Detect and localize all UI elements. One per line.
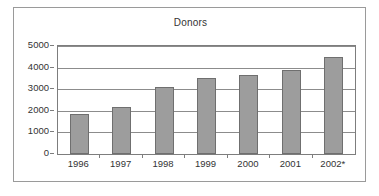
chart-frame: Donors 010002000300040005000 19961997199… xyxy=(13,7,366,182)
y-tick-label: 5000 xyxy=(28,40,49,50)
y-tick-label: 3000 xyxy=(28,83,49,93)
bar xyxy=(239,75,258,154)
y-tick-label: 1000 xyxy=(28,127,49,137)
plot-area xyxy=(57,45,356,155)
x-tick-mark xyxy=(269,154,270,158)
y-tick-label: 0 xyxy=(44,148,49,158)
y-tick-mark xyxy=(50,131,54,132)
y-tick-label: 4000 xyxy=(28,62,49,72)
bar xyxy=(112,107,131,154)
x-tick-label: 1999 xyxy=(184,158,226,169)
y-tick-mark xyxy=(50,110,54,111)
x-tick-mark xyxy=(99,154,100,158)
bar xyxy=(324,57,343,154)
bar xyxy=(197,78,216,154)
bar-series xyxy=(58,46,355,154)
y-axis: 010002000300040005000 xyxy=(14,45,54,155)
x-tick-label: 2002* xyxy=(312,158,354,169)
x-tick-label: 2000 xyxy=(227,158,269,169)
y-tick-mark xyxy=(50,67,54,68)
chart-title: Donors xyxy=(14,17,367,28)
x-tick-mark xyxy=(227,154,228,158)
x-tick-mark xyxy=(142,154,143,158)
bar xyxy=(155,87,174,154)
x-axis: 1996199719981999200020012002* xyxy=(57,158,356,174)
y-tick-mark xyxy=(50,153,54,154)
y-tick-mark xyxy=(50,45,54,46)
x-tick-mark xyxy=(312,154,313,158)
y-tick-mark xyxy=(50,88,54,89)
x-tick-mark xyxy=(184,154,185,158)
bar xyxy=(70,114,89,154)
x-tick-label: 1996 xyxy=(57,158,99,169)
x-tick-label: 1998 xyxy=(142,158,184,169)
bar xyxy=(282,70,301,154)
x-tick-label: 1997 xyxy=(99,158,141,169)
x-tick-label: 2001 xyxy=(269,158,311,169)
y-tick-label: 2000 xyxy=(28,105,49,115)
